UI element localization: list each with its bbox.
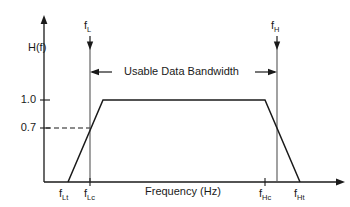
- marker-label-fh: fH: [271, 20, 279, 31]
- y-tick-marks: [40, 100, 50, 128]
- marker-label-flc: fLc: [84, 188, 95, 199]
- marker-label-flt-sub: Lt: [62, 193, 68, 202]
- y-tick-label-1-0: 1.0: [6, 94, 36, 105]
- bandwidth-arrow-right: [255, 69, 277, 75]
- y-axis-title: H(f): [28, 42, 46, 53]
- marker-label-fht-sub: Ht: [297, 193, 305, 202]
- marker-label-fhc-sub: Hc: [262, 193, 271, 202]
- marker-label-fh-sub: H: [274, 25, 279, 34]
- marker-label-flt: fLt: [59, 188, 68, 199]
- x-axis-title: Frequency (Hz): [145, 186, 221, 197]
- marker-label-fht: fHt: [294, 188, 305, 199]
- arrow-down-fh: [274, 36, 280, 50]
- bandwidth-arrow-left: [90, 69, 112, 75]
- bandwidth-annotation-label: Usable Data Bandwidth: [124, 66, 239, 77]
- marker-label-flc-sub: Lc: [87, 193, 95, 202]
- marker-label-fl: fL: [84, 20, 91, 31]
- response-curve: [68, 100, 300, 182]
- marker-label-fhc: fHc: [259, 188, 271, 199]
- arrow-down-fl: [87, 36, 93, 50]
- marker-label-fl-sub: L: [87, 25, 91, 34]
- y-tick-label-0-7: 0.7: [6, 122, 36, 133]
- filter-response-figure: H(f) 1.0 0.7 Frequency (Hz) fL fH Usable…: [0, 0, 350, 207]
- plot-canvas: [0, 0, 350, 207]
